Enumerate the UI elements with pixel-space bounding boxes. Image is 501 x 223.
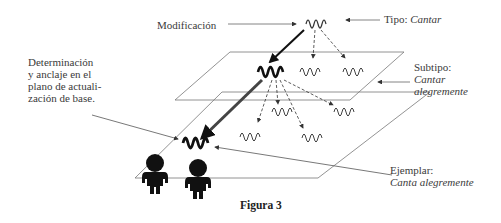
subtype-wave-icon bbox=[343, 68, 363, 76]
determination-line-2: y anclaje en el bbox=[28, 68, 101, 80]
subtype-label-prefix: Subtipo: bbox=[414, 61, 468, 73]
person-icon bbox=[142, 154, 168, 194]
determination-label: Determinación y anclaje en el plano de a… bbox=[28, 56, 101, 104]
subtype-label-value-1: Cantar bbox=[414, 73, 468, 85]
instance-plane bbox=[135, 92, 430, 178]
determination-line-3: plano de actuali- bbox=[28, 80, 101, 92]
modification-label: Modificación bbox=[157, 19, 216, 31]
subtype-label-value-2: alegremente bbox=[414, 85, 468, 97]
instance-label: Ejemplar: Canta alegremente bbox=[390, 164, 474, 188]
type-label-prefix: Tipo: bbox=[384, 13, 410, 25]
determination-line-4: zación de base. bbox=[28, 92, 101, 104]
instance-wave-icon bbox=[272, 108, 292, 116]
subtype-label: Subtipo: Cantar alegremente bbox=[414, 61, 468, 97]
determination-line-1: Determinación bbox=[28, 56, 101, 68]
subtype-plane bbox=[175, 52, 404, 100]
figure-caption: Figura 3 bbox=[240, 199, 282, 211]
subtype-wave-bold-icon bbox=[258, 67, 283, 77]
instance-wave-bold-icon bbox=[183, 138, 208, 148]
instance-wave-icon bbox=[302, 134, 322, 142]
instance-label-prefix: Ejemplar: bbox=[390, 164, 474, 176]
person-icon bbox=[185, 159, 211, 199]
type-wave-icon bbox=[306, 20, 326, 28]
instance-wave-icon bbox=[334, 108, 354, 116]
diagram-canvas bbox=[0, 0, 501, 223]
type-label: Tipo: Cantar bbox=[384, 13, 441, 25]
instance-wave-icon bbox=[240, 133, 260, 141]
subtype-wave-icon bbox=[300, 68, 320, 76]
instance-label-value: Canta alegremente bbox=[390, 176, 474, 188]
type-label-value: Cantar bbox=[410, 13, 441, 25]
